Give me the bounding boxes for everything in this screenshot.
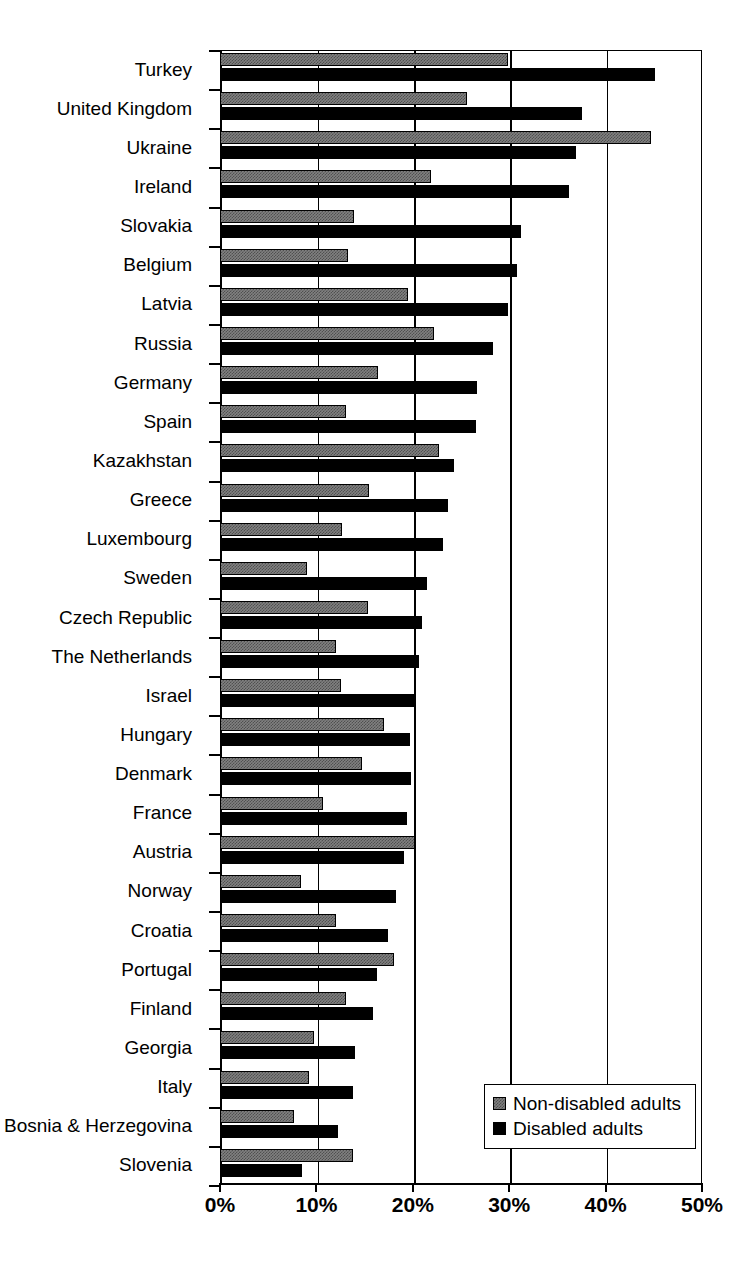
y-axis-tick <box>209 676 220 678</box>
bar-disabled-adults <box>220 225 521 238</box>
bar-group <box>220 559 702 598</box>
bar-disabled-adults <box>220 420 476 433</box>
bar-group <box>220 794 702 833</box>
y-axis-tick <box>209 794 220 796</box>
bar-non-disabled-adults <box>220 484 369 497</box>
bar-disabled-adults <box>220 772 411 785</box>
bar-non-disabled-adults <box>220 1071 309 1084</box>
bar-non-disabled-adults <box>220 131 651 144</box>
x-axis-tick <box>508 1183 510 1192</box>
x-axis-tick <box>605 1183 607 1192</box>
bar-disabled-adults <box>220 577 427 590</box>
x-axis-label: 10% <box>295 1192 337 1218</box>
bar-group <box>220 754 702 793</box>
y-axis: TurkeyUnited KingdomUkraineIrelandSlovak… <box>0 50 220 1185</box>
bar-group <box>220 950 702 989</box>
bar-non-disabled-adults <box>220 953 394 966</box>
bar-group <box>220 872 702 911</box>
y-axis-label: Latvia <box>141 293 192 315</box>
x-axis-tick <box>219 1183 221 1192</box>
bar-disabled-adults <box>220 146 576 159</box>
bar-non-disabled-adults <box>220 640 336 653</box>
legend-item-non-disabled-adults: Non-disabled adults <box>493 1091 687 1116</box>
y-axis-tick <box>209 911 220 913</box>
bar-group <box>220 1028 702 1067</box>
y-axis-tick <box>209 207 220 209</box>
bar-non-disabled-adults <box>220 327 434 340</box>
bar-disabled-adults <box>220 1164 302 1177</box>
bar-non-disabled-adults <box>220 797 323 810</box>
bar-group <box>220 402 702 441</box>
y-axis-tick <box>209 989 220 991</box>
legend-swatch-gray-icon <box>493 1097 506 1110</box>
y-axis-label: Kazakhstan <box>93 450 192 472</box>
bar-disabled-adults <box>220 381 477 394</box>
bar-group <box>220 481 702 520</box>
y-axis-tick <box>209 754 220 756</box>
bar-non-disabled-adults <box>220 601 368 614</box>
y-axis-tick <box>209 167 220 169</box>
y-axis-label: Slovakia <box>120 215 192 237</box>
bar-group <box>220 246 702 285</box>
bar-group <box>220 637 702 676</box>
bar-disabled-adults <box>220 733 410 746</box>
horizontal-bar-chart: TurkeyUnited KingdomUkraineIrelandSlovak… <box>0 0 756 1261</box>
bar-non-disabled-adults <box>220 836 415 849</box>
bar-non-disabled-adults <box>220 875 301 888</box>
bar-non-disabled-adults <box>220 405 346 418</box>
bar-disabled-adults <box>220 68 655 81</box>
legend-label-disabled-adults: Disabled adults <box>513 1118 643 1139</box>
y-axis-label: Finland <box>130 998 192 1020</box>
y-axis-tick <box>209 1107 220 1109</box>
y-axis-label: Norway <box>128 880 192 902</box>
bar-group <box>220 441 702 480</box>
bar-disabled-adults <box>220 851 404 864</box>
bar-non-disabled-adults <box>220 444 439 457</box>
y-axis-tick <box>209 598 220 600</box>
bar-disabled-adults <box>220 812 407 825</box>
x-axis-label: 50% <box>681 1192 723 1218</box>
y-axis-label: Russia <box>134 333 192 355</box>
bar-disabled-adults <box>220 890 396 903</box>
y-axis-tick <box>209 1068 220 1070</box>
bar-non-disabled-adults <box>220 718 384 731</box>
bar-group <box>220 1146 702 1185</box>
bar-group <box>220 520 702 559</box>
y-axis-label: Belgium <box>123 254 192 276</box>
bar-group <box>220 324 702 363</box>
y-axis-label: Czech Republic <box>59 607 192 629</box>
bar-group <box>220 833 702 872</box>
bar-group <box>220 911 702 950</box>
bar-non-disabled-adults <box>220 53 508 66</box>
y-axis-tick <box>209 128 220 130</box>
y-axis-tick <box>209 1146 220 1148</box>
y-axis-tick <box>209 246 220 248</box>
bar-non-disabled-adults <box>220 1149 353 1162</box>
bar-non-disabled-adults <box>220 523 342 536</box>
y-axis-tick <box>209 1028 220 1030</box>
y-axis-label: Ireland <box>134 176 192 198</box>
x-axis-tick <box>315 1183 317 1192</box>
x-axis-label: 30% <box>488 1192 530 1218</box>
bar-group <box>220 676 702 715</box>
y-axis-label: Sweden <box>123 567 192 589</box>
y-axis-tick <box>209 285 220 287</box>
bar-non-disabled-adults <box>220 92 467 105</box>
legend-swatch-black-icon <box>493 1122 506 1135</box>
bar-non-disabled-adults <box>220 366 378 379</box>
y-axis-label: Georgia <box>124 1037 192 1059</box>
bar-disabled-adults <box>220 1007 373 1020</box>
bar-group <box>220 363 702 402</box>
bar-group <box>220 989 702 1028</box>
x-axis-label: 0% <box>205 1192 235 1218</box>
y-axis-label: United Kingdom <box>57 98 192 120</box>
bar-group <box>220 89 702 128</box>
bar-group <box>220 50 702 89</box>
y-axis-label: Croatia <box>131 920 192 942</box>
bar-group <box>220 167 702 206</box>
x-axis-label: 20% <box>392 1192 434 1218</box>
bar-disabled-adults <box>220 459 454 472</box>
bar-group <box>220 715 702 754</box>
bar-group <box>220 598 702 637</box>
y-axis-label: Slovenia <box>119 1154 192 1176</box>
